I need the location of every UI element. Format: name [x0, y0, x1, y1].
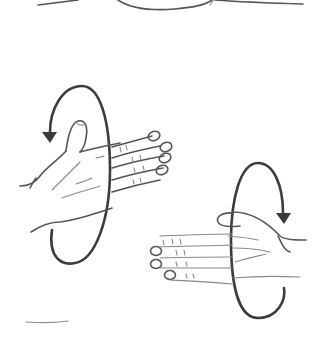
arrowhead-icon — [276, 213, 291, 224]
right-fingers — [151, 234, 233, 284]
rotation-sketch — [0, 0, 326, 358]
faint-mark — [26, 321, 68, 323]
top-curve — [38, 0, 303, 10]
left-fingers — [112, 130, 173, 192]
arrowhead-icon — [42, 132, 57, 143]
right-hand-figure — [151, 163, 307, 318]
rotation-arrow-right — [231, 163, 284, 318]
rotation-arrow-left — [50, 86, 110, 264]
sketch-canvas — [0, 0, 326, 358]
left-hand-figure — [20, 86, 173, 264]
